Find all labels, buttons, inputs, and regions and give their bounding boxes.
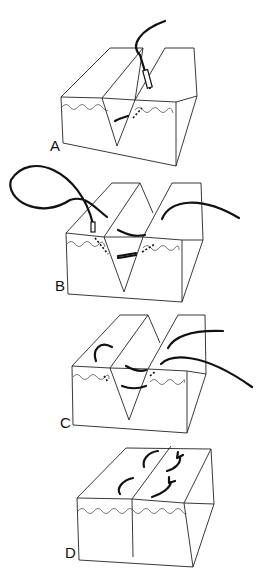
suture-technique-diagram: A B C	[0, 0, 260, 569]
panel-d-label: D	[65, 544, 76, 561]
panel-d: D	[65, 446, 214, 567]
panel-a-label: A	[50, 137, 60, 154]
panel-b-label: B	[55, 277, 65, 294]
panel-a: A	[50, 21, 197, 166]
panel-c-label: C	[60, 414, 71, 431]
panel-b: B	[10, 166, 239, 302]
panel-c: C	[60, 315, 252, 433]
